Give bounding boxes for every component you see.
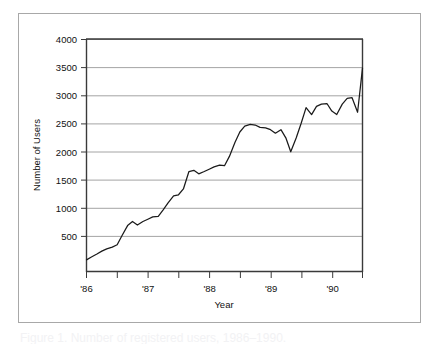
plot-axes <box>86 39 363 272</box>
y-axis-tick-labels: 4000 3500 3000 2500 2000 1500 1000 500 <box>56 34 77 242</box>
x-tick-label-1988: '88 <box>203 283 215 294</box>
x-tick-label-1990: '90 <box>327 283 339 294</box>
chart-canvas: 4000 3500 3000 2500 2000 1500 1000 500 '… <box>0 0 440 330</box>
y-tick-label-3000: 3000 <box>56 90 77 101</box>
x-tick-label-1989: '89 <box>265 283 277 294</box>
line-chart-svg: 4000 3500 3000 2500 2000 1500 1000 500 '… <box>0 0 440 330</box>
x-axis-ticks <box>87 272 363 278</box>
y-tick-label-4000: 4000 <box>56 34 77 45</box>
y-axis-ticks <box>81 40 86 237</box>
y-tick-label-2500: 2500 <box>56 118 77 129</box>
series-line-number-of-users <box>87 68 363 260</box>
x-axis-tick-labels: '86 '87 '88 '89 '90 <box>80 283 339 294</box>
y-axis-title: Number of Users <box>31 119 42 191</box>
figure-caption: Figure 1. Number of registered users, 19… <box>20 331 420 344</box>
x-tick-label-1987: '87 <box>142 283 154 294</box>
y-tick-label-500: 500 <box>61 231 77 242</box>
y-tick-label-1500: 1500 <box>56 175 77 186</box>
gridlines <box>86 40 363 237</box>
y-tick-label-1000: 1000 <box>56 203 77 214</box>
x-axis-title: Year <box>214 299 233 310</box>
x-tick-label-1986: '86 <box>80 283 92 294</box>
y-tick-label-3500: 3500 <box>56 62 77 73</box>
y-tick-label-2000: 2000 <box>56 147 77 158</box>
